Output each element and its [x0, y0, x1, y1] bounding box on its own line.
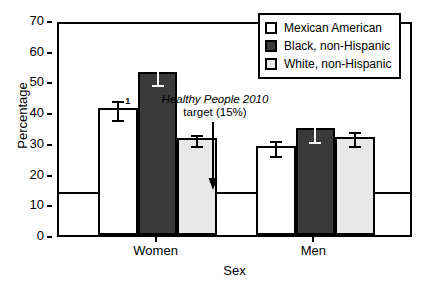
bar-men-white [256, 146, 295, 235]
error-bar-cap-top [349, 132, 361, 134]
error-bar-cap-top [112, 101, 124, 103]
error-bar-cap-top [309, 118, 321, 120]
error-bar-stem [117, 101, 119, 123]
target-annotation: Healthy People 2010 target (15%) [150, 93, 280, 119]
annotation-line-1: Healthy People 2010 [150, 93, 280, 106]
y-tick-label: 60 [4, 44, 44, 59]
error-bar-cap-bottom [270, 156, 282, 158]
y-tick-label: 40 [4, 105, 44, 120]
legend-swatch-light [265, 58, 277, 70]
bar-men-light [335, 137, 374, 235]
error-bar-cap-top [152, 64, 164, 66]
error-bar-cap-bottom [349, 146, 361, 148]
y-tick-mark [47, 144, 52, 146]
y-tick-label: 10 [4, 197, 44, 212]
x-axis-label: Sex [57, 263, 412, 278]
error-bar-cap-top [270, 141, 282, 143]
legend-item-2: White, non-Hispanic [265, 55, 391, 73]
y-tick-label: 50 [4, 74, 44, 89]
x-tick-men [312, 237, 314, 242]
error-bar-cap-bottom [112, 120, 124, 122]
legend: Mexican AmericanBlack, non-HispanicWhite… [258, 13, 401, 79]
annotation-line-2: target (15%) [150, 106, 280, 119]
bar-women-white [98, 108, 137, 235]
legend-label: Mexican American [284, 21, 382, 35]
error-bar-cap-bottom [309, 142, 321, 144]
chart-figure: Percentage Sex 010203040506070 WomenMen … [0, 0, 423, 288]
x-group-label-men: Men [273, 243, 353, 258]
error-bar-stem [314, 118, 316, 144]
y-tick-mark [47, 236, 52, 238]
legend-label: White, non-Hispanic [284, 57, 391, 71]
legend-swatch-white [265, 22, 277, 34]
x-group-label-women: Women [116, 243, 196, 258]
legend-item-1: Black, non-Hispanic [265, 37, 391, 55]
legend-label: Black, non-Hispanic [284, 39, 390, 53]
y-tick-mark [47, 52, 52, 54]
y-tick-mark [47, 205, 52, 207]
y-tick-label: 30 [4, 136, 44, 151]
legend-item-0: Mexican American [265, 19, 391, 37]
y-tick-label: 20 [4, 167, 44, 182]
arrow-down-icon [207, 122, 219, 190]
error-bar-cap-bottom [152, 85, 164, 87]
error-bar-cap-bottom [191, 146, 203, 148]
legend-swatch-dark [265, 40, 277, 52]
x-tick-women [155, 237, 157, 242]
y-tick-mark [47, 82, 52, 84]
y-tick-mark [47, 113, 52, 115]
y-tick-mark [47, 175, 52, 177]
y-tick-label: 70 [4, 13, 44, 28]
error-bar-stem [157, 64, 159, 87]
error-bar-cap-top [191, 135, 203, 137]
y-tick-mark [47, 21, 52, 23]
footnote-marker: 1 [125, 97, 130, 106]
y-tick-label: 0 [4, 228, 44, 243]
